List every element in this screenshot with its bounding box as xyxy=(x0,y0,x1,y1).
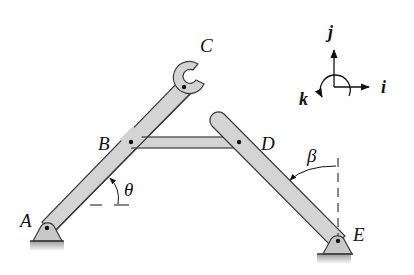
label-C: C xyxy=(200,35,213,56)
label-A: A xyxy=(18,210,32,231)
pin-A xyxy=(45,226,49,230)
label-B: B xyxy=(98,133,110,154)
label-D: D xyxy=(260,133,275,154)
pin-D xyxy=(237,140,241,144)
member-AC xyxy=(42,80,192,234)
pin-C xyxy=(182,85,186,89)
hook-C xyxy=(173,61,204,93)
member-DE xyxy=(210,112,345,248)
k-rotation-arrow xyxy=(320,75,350,97)
member-AC-overlay xyxy=(52,92,192,234)
linkage-diagram: A B C D E θ β j i k xyxy=(0,0,414,275)
label-theta: θ xyxy=(124,179,133,200)
label-j: j xyxy=(325,22,334,42)
coordinate-axes xyxy=(320,50,369,97)
pin-B xyxy=(129,140,133,144)
label-E: E xyxy=(352,224,365,245)
label-i: i xyxy=(381,77,386,97)
ground-E xyxy=(317,254,351,264)
ground-A xyxy=(30,241,64,251)
label-k: k xyxy=(299,89,308,109)
pin-E xyxy=(336,239,340,243)
label-beta: β xyxy=(306,145,317,166)
support-E xyxy=(317,236,353,254)
